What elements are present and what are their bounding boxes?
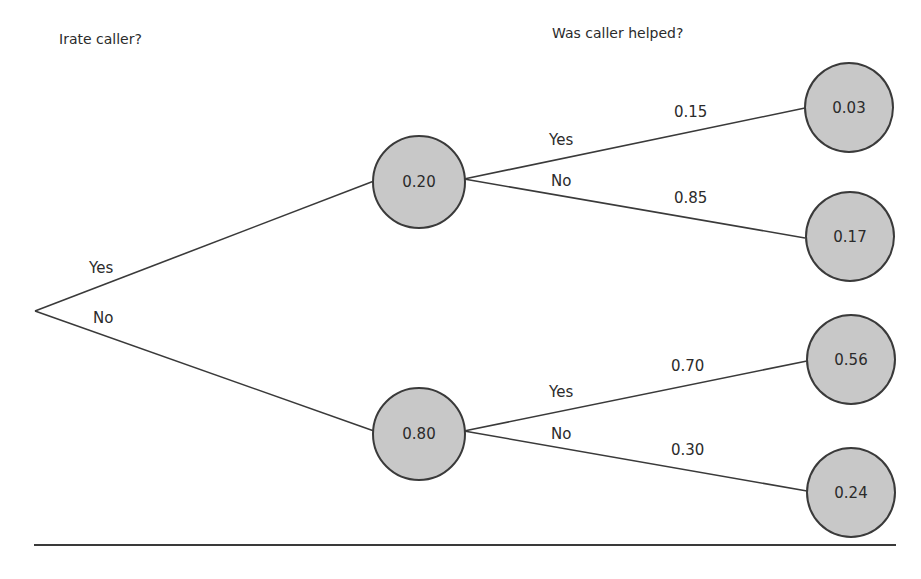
edge-irate-no-helped-yes	[464, 361, 807, 431]
upper-yes-label: Yes	[549, 131, 573, 149]
bottom-divider	[34, 544, 896, 546]
leaf-value: 0.24	[834, 484, 867, 502]
leaf-irate-no-helped-yes: 0.56	[806, 314, 896, 405]
upper-no-probability: 0.85	[674, 189, 707, 207]
upper-no-label: No	[551, 172, 571, 190]
edge-irate-yes-helped-no	[464, 179, 805, 238]
lower-no-label: No	[551, 425, 571, 443]
tree-edges	[0, 0, 921, 579]
lower-no-probability: 0.30	[671, 441, 704, 459]
leaf-irate-no-helped-no: 0.24	[806, 447, 896, 538]
node-irate-no: 0.80	[372, 387, 466, 481]
leaf-value: 0.03	[832, 99, 865, 117]
upper-yes-probability: 0.15	[674, 103, 707, 121]
node-irate-yes: 0.20	[372, 135, 466, 229]
leaf-irate-yes-helped-yes: 0.03	[804, 62, 894, 153]
stage2-heading: Was caller helped?	[552, 24, 683, 42]
edge-root-no	[35, 311, 374, 431]
edge-root-yes	[35, 181, 374, 311]
lower-yes-label: Yes	[549, 383, 573, 401]
node-irate-yes-value: 0.20	[402, 173, 435, 191]
root-branch-yes-label: Yes	[89, 259, 113, 277]
edge-irate-no-helped-no	[464, 431, 807, 491]
stage1-heading: Irate caller?	[59, 30, 142, 48]
leaf-value: 0.56	[834, 351, 867, 369]
root-branch-no-label: No	[93, 309, 113, 327]
node-irate-no-value: 0.80	[402, 425, 435, 443]
probability-tree-diagram: Irate caller? Was caller helped? Yes No …	[0, 0, 921, 579]
lower-yes-probability: 0.70	[671, 357, 704, 375]
edge-irate-yes-helped-yes	[464, 108, 805, 179]
leaf-value: 0.17	[833, 228, 866, 246]
leaf-irate-yes-helped-no: 0.17	[805, 191, 895, 282]
